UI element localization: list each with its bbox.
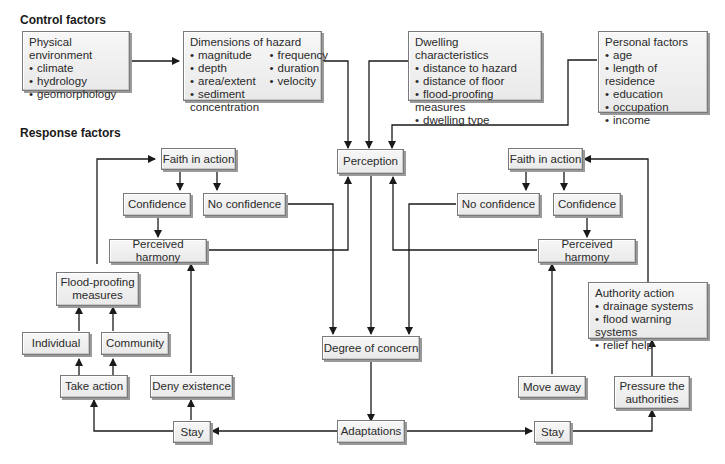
- left-confidence-node: Confidence: [123, 193, 191, 216]
- list-item: geomorphology: [29, 88, 123, 101]
- perception-node: Perception: [337, 149, 404, 174]
- list-item: sediment concentration: [190, 88, 315, 114]
- right-faith-in-action-node: Faith in action: [508, 148, 583, 170]
- list-item: depth: [190, 62, 256, 75]
- list-item: occupation: [605, 101, 701, 114]
- dimensions-of-hazard-box: Dimensions of hazard magnitude frequency…: [183, 31, 322, 101]
- right-stay-node: Stay: [534, 421, 571, 443]
- list-item: flood warning systems: [595, 313, 701, 339]
- flood-proofing-measures-node: Flood-proofing measures: [56, 272, 139, 306]
- dwelling-title: Dwelling characteristics: [415, 36, 535, 62]
- authority-action-box: Authority action drainage systems flood …: [588, 282, 708, 339]
- personal-factors-box: Personal factors age length of residence…: [598, 31, 708, 113]
- take-action-node: Take action: [60, 375, 128, 398]
- pressure-the-authorities-node: Pressure the authorities: [614, 376, 690, 409]
- personal-title: Personal factors: [605, 36, 701, 49]
- adaptations-node: Adaptations: [337, 420, 405, 443]
- list-item: distance to hazard: [415, 62, 535, 75]
- list-item: area/extent: [190, 75, 256, 88]
- deny-existence-node: Deny existence: [150, 375, 233, 398]
- list-item: education: [605, 88, 701, 101]
- individual-node: Individual: [22, 332, 90, 355]
- list-item: dwelling type: [415, 114, 535, 127]
- right-confidence-node: Confidence: [553, 193, 621, 216]
- list-item: income: [605, 114, 701, 127]
- authority-title: Authority action: [595, 287, 701, 300]
- list-item: relief help: [595, 339, 701, 352]
- list-item: flood-proofing measures: [415, 88, 535, 114]
- degree-of-concern-node: Degree of concern: [322, 336, 420, 360]
- right-perceived-harmony-node: Perceived harmony: [538, 239, 636, 263]
- list-item: frequency: [270, 49, 329, 62]
- left-stay-node: Stay: [173, 421, 211, 443]
- list-item: drainage systems: [595, 300, 701, 313]
- control-factors-heading: Control factors: [20, 13, 106, 27]
- list-item: magnitude: [190, 49, 256, 62]
- list-item: length of residence: [605, 62, 701, 88]
- hazard-title: Dimensions of hazard: [190, 36, 315, 49]
- list-item: distance of floor: [415, 75, 535, 88]
- dwelling-characteristics-box: Dwelling characteristics distance to haz…: [408, 31, 542, 101]
- physical-environment-box: Physical environment climate hydrology g…: [22, 31, 130, 91]
- list-item: velocity: [270, 75, 329, 88]
- right-no-confidence-node: No confidence: [457, 193, 540, 216]
- list-item: duration: [270, 62, 329, 75]
- left-no-confidence-node: No confidence: [203, 193, 286, 216]
- list-item: hydrology: [29, 75, 123, 88]
- list-item: climate: [29, 62, 123, 75]
- list-item: age: [605, 49, 701, 62]
- left-faith-in-action-node: Faith in action: [161, 148, 236, 170]
- physical-environment-title: Physical environment: [29, 36, 123, 62]
- move-away-node: Move away: [518, 376, 586, 398]
- response-factors-heading: Response factors: [20, 126, 121, 140]
- left-perceived-harmony-node: Perceived harmony: [109, 239, 207, 263]
- community-node: Community: [101, 332, 169, 355]
